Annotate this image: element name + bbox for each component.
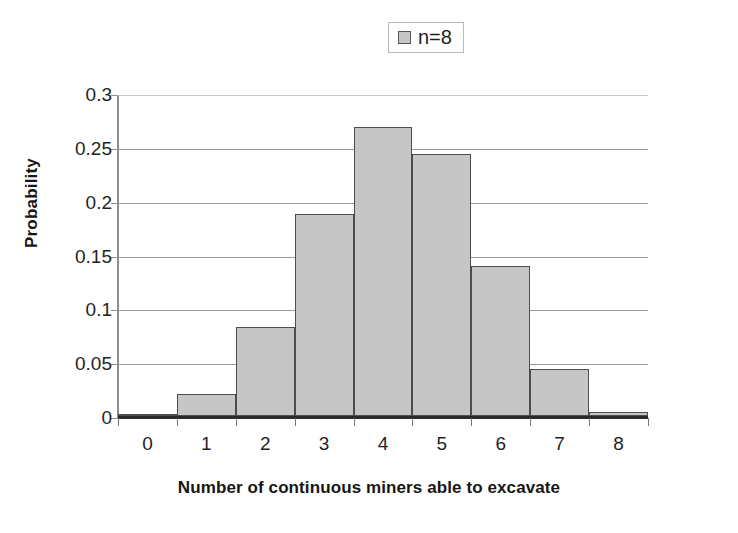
y-axis-tick-label: 0.25 — [75, 138, 112, 160]
bar — [295, 214, 354, 416]
x-axis-tick-label: 2 — [260, 433, 271, 455]
bar — [412, 154, 471, 416]
y-axis-tick — [111, 149, 118, 150]
x-axis-tick — [412, 418, 413, 426]
y-axis-tick-label: 0 — [101, 407, 112, 429]
x-axis-tick-label: 0 — [142, 433, 153, 455]
bar — [354, 127, 413, 416]
x-axis-title: Number of continuous miners able to exca… — [0, 478, 738, 498]
gridline — [118, 95, 648, 96]
x-axis-tick — [471, 418, 472, 426]
chart-figure: n=8 Probability Number of continuous min… — [0, 0, 738, 533]
x-axis-tick — [354, 418, 355, 426]
y-axis-tick-label: 0.15 — [75, 246, 112, 268]
x-axis-tick — [530, 418, 531, 426]
bar — [530, 369, 589, 416]
y-axis-tick — [111, 95, 118, 96]
bar — [236, 327, 295, 416]
bar — [177, 394, 236, 416]
plot-area: 00.050.10.150.20.250.3 012345678 — [118, 95, 648, 418]
x-axis-tick-label: 1 — [201, 433, 212, 455]
y-axis-tick — [111, 310, 118, 311]
x-axis-tick-label: 6 — [495, 433, 506, 455]
x-axis-tick — [236, 418, 237, 426]
legend-label-n8: n=8 — [418, 27, 452, 47]
y-axis-tick — [111, 257, 118, 258]
x-axis-tick — [589, 418, 590, 426]
x-axis-tick-label: 5 — [437, 433, 448, 455]
y-axis-tick — [111, 203, 118, 204]
y-axis-tick-label: 0.1 — [86, 299, 112, 321]
chart-legend: n=8 — [388, 22, 464, 53]
x-axis-tick — [648, 418, 649, 426]
legend-square-marker-icon — [398, 31, 411, 44]
y-axis-tick-label: 0.2 — [86, 192, 112, 214]
x-axis-line — [118, 416, 648, 419]
y-axis-tick — [111, 364, 118, 365]
x-axis-tick-label: 4 — [378, 433, 389, 455]
x-axis-tick — [295, 418, 296, 426]
x-axis-tick — [118, 418, 119, 426]
x-axis-tick-label: 8 — [613, 433, 624, 455]
x-axis-tick — [177, 418, 178, 426]
y-axis-tick — [111, 418, 118, 419]
y-axis-title: Probability — [22, 133, 42, 273]
y-axis-tick-label: 0.3 — [86, 84, 112, 106]
bar — [471, 266, 530, 416]
x-axis-tick-label: 7 — [554, 433, 565, 455]
y-axis-tick-label: 0.05 — [75, 353, 112, 375]
x-axis-tick-label: 3 — [319, 433, 330, 455]
